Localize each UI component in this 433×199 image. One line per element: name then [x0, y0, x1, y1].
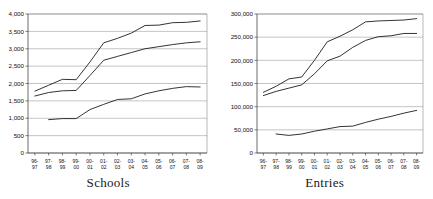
x-axis-tick-label: 03-04 [128, 158, 136, 171]
svg-text:03-: 03- [128, 158, 136, 164]
x-axis-tick-label: 01-02 [323, 158, 331, 171]
svg-text:99-: 99- [298, 158, 306, 164]
y-axis-tick-label: 250,000 [230, 33, 253, 40]
svg-text:08: 08 [401, 164, 407, 170]
svg-text:04-: 04- [361, 158, 369, 164]
series-line-upper [263, 19, 416, 93]
svg-text:03: 03 [337, 164, 343, 170]
chart-panel-entries: 050,000100,000150,000200,000250,000300,0… [217, 0, 433, 199]
svg-text:04: 04 [128, 164, 134, 170]
y-axis-tick-label: 1,000 [9, 114, 25, 121]
y-axis-tick-label: 300,000 [230, 10, 253, 17]
x-axis-tick-label: 05-06 [374, 158, 382, 171]
svg-text:08-: 08- [412, 158, 420, 164]
svg-text:03-: 03- [349, 158, 357, 164]
svg-text:07: 07 [170, 164, 176, 170]
svg-text:98: 98 [273, 164, 279, 170]
y-axis-tick-label: 150,000 [230, 80, 253, 87]
x-axis-tick-label: 07-08 [400, 158, 408, 171]
svg-text:07-: 07- [400, 158, 408, 164]
svg-text:98: 98 [46, 164, 52, 170]
svg-text:08: 08 [184, 164, 190, 170]
x-axis-tick-label: 07-08 [183, 158, 191, 171]
x-axis-tick-label: 06-07 [387, 158, 395, 171]
svg-text:04: 04 [349, 164, 355, 170]
svg-text:06-: 06- [387, 158, 395, 164]
svg-text:05-: 05- [374, 158, 382, 164]
svg-text:97: 97 [260, 164, 266, 170]
x-axis-tick-label: 97-98 [45, 158, 53, 171]
y-axis-tick-label: 1,500 [9, 97, 25, 104]
y-axis-tick-label: 500 [14, 132, 25, 139]
x-axis-tick-label: 98-99 [59, 158, 67, 171]
series-line-middle [263, 33, 416, 95]
x-axis-tick-label: 02-03 [336, 158, 344, 171]
svg-text:03: 03 [115, 164, 121, 170]
x-axis-tick-label: 97-98 [272, 158, 280, 171]
x-axis-tick-label: 99-00 [298, 158, 306, 171]
svg-text:99: 99 [60, 164, 66, 170]
y-axis-tick-label: 2,000 [9, 80, 25, 87]
x-axis-tick-label: 05-06 [155, 158, 163, 171]
svg-text:01-: 01- [100, 158, 108, 164]
svg-text:00: 00 [298, 164, 304, 170]
svg-text:07-: 07- [183, 158, 191, 164]
svg-text:96-: 96- [31, 158, 39, 164]
y-axis-tick-label: 2,500 [9, 62, 25, 69]
svg-text:05: 05 [142, 164, 148, 170]
x-axis-tick-label: 08-09 [196, 158, 204, 171]
y-axis-tick-label: 3,000 [9, 45, 25, 52]
svg-text:00-: 00- [310, 158, 318, 164]
svg-text:00-: 00- [86, 158, 94, 164]
svg-text:02: 02 [101, 164, 107, 170]
x-axis-tick-label: 00-01 [310, 158, 318, 171]
entries-chart-svg: 050,000100,000150,000200,000250,000300,0… [217, 0, 433, 176]
y-axis-tick-label: 4,000 [9, 10, 25, 17]
svg-text:97-: 97- [272, 158, 280, 164]
x-axis-tick-label: 96-97 [259, 158, 267, 171]
svg-text:07: 07 [388, 164, 394, 170]
series-line-lower [276, 110, 416, 135]
x-axis-tick-label: 99-00 [73, 158, 81, 171]
svg-text:06-: 06- [169, 158, 177, 164]
x-axis-tick-label: 01-02 [100, 158, 108, 171]
svg-text:06: 06 [156, 164, 162, 170]
y-axis-tick-label: 50,000 [234, 126, 253, 133]
svg-text:09: 09 [413, 164, 419, 170]
y-axis-tick-label: 0 [21, 149, 25, 156]
x-axis-tick-label: 03-04 [349, 158, 357, 171]
svg-text:02-: 02- [336, 158, 344, 164]
svg-text:99: 99 [286, 164, 292, 170]
svg-text:97-: 97- [45, 158, 53, 164]
svg-text:01: 01 [87, 164, 93, 170]
x-axis-tick-label: 08-09 [412, 158, 420, 171]
schools-chart-svg: 05001,0001,5002,0002,5003,0003,5004,0009… [0, 0, 216, 176]
series-line-lower [49, 87, 200, 120]
x-axis-tick-label: 96-97 [31, 158, 39, 171]
svg-text:97: 97 [32, 164, 38, 170]
svg-text:02-: 02- [114, 158, 122, 164]
svg-text:08-: 08- [196, 158, 204, 164]
y-axis-tick-label: 100,000 [230, 103, 253, 110]
entries-chart-title: Entries [217, 176, 433, 190]
x-axis-tick-label: 06-07 [169, 158, 177, 171]
x-axis-tick-label: 98-99 [285, 158, 293, 171]
svg-text:05: 05 [362, 164, 368, 170]
svg-text:01: 01 [311, 164, 317, 170]
svg-text:09: 09 [197, 164, 203, 170]
chart-panel-schools: 05001,0001,5002,0002,5003,0003,5004,0009… [0, 0, 217, 199]
x-axis-tick-label: 04-05 [361, 158, 369, 171]
svg-text:05-: 05- [155, 158, 163, 164]
svg-text:06: 06 [375, 164, 381, 170]
svg-text:96-: 96- [259, 158, 267, 164]
x-axis-tick-label: 02-03 [114, 158, 122, 171]
svg-text:00: 00 [73, 164, 79, 170]
svg-text:01-: 01- [323, 158, 331, 164]
svg-text:98-: 98- [285, 158, 293, 164]
svg-text:98-: 98- [59, 158, 67, 164]
svg-text:02: 02 [324, 164, 330, 170]
schools-chart-title: Schools [0, 176, 217, 190]
y-axis-tick-label: 3,500 [9, 28, 25, 35]
dual-line-chart-figure: 05001,0001,5002,0002,5003,0003,5004,0009… [0, 0, 433, 199]
y-axis-tick-label: 0 [249, 149, 253, 156]
